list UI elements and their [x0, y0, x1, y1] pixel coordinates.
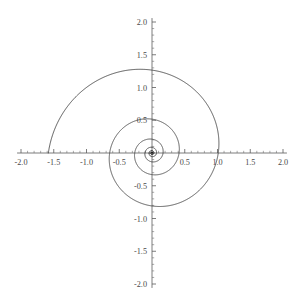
- y-tick-label: -1.0: [134, 215, 147, 224]
- y-tick-label: 2.0: [137, 18, 147, 27]
- x-tick-label: 1.5: [245, 158, 255, 167]
- y-tick-label: -0.5: [134, 182, 147, 191]
- spiral-plot-figure: -2.0-1.5-1.0-0.50.51.01.52.0 -2.0-1.5-1.…: [0, 0, 299, 307]
- x-tick-label: -2.0: [15, 158, 28, 167]
- y-tick-label: 1.5: [137, 51, 147, 60]
- x-axis-tick-labels: -2.0-1.5-1.0-0.50.51.01.52.0: [15, 158, 289, 167]
- x-tick-label: 1.0: [212, 158, 222, 167]
- y-tick-label: 1.0: [137, 84, 147, 93]
- plot-canvas: -2.0-1.5-1.0-0.50.51.01.52.0 -2.0-1.5-1.…: [0, 0, 299, 307]
- x-tick-label: -1.0: [80, 158, 93, 167]
- axes-group: [17, 18, 287, 288]
- y-tick-label: -2.0: [134, 280, 147, 289]
- y-tick-label: 0.5: [137, 116, 147, 125]
- x-tick-label: -0.5: [113, 158, 126, 167]
- x-tick-label: 0.5: [180, 158, 190, 167]
- y-tick-label: -1.5: [134, 247, 147, 256]
- x-tick-label: 2.0: [278, 158, 288, 167]
- x-tick-label: -1.5: [47, 158, 60, 167]
